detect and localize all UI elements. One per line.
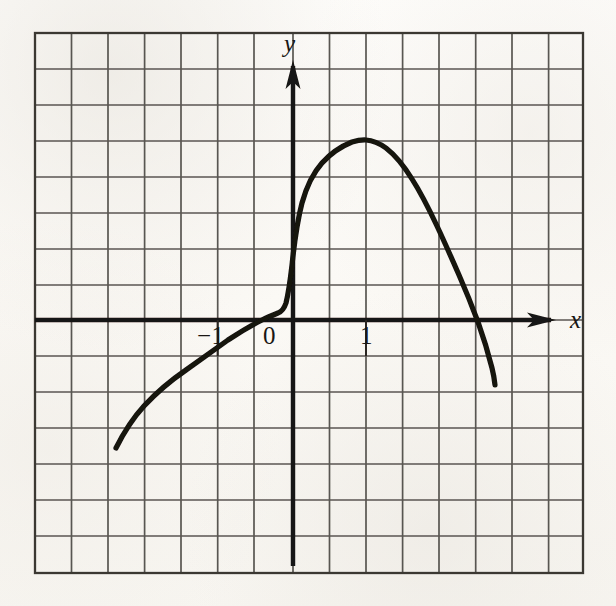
x-tick-label-one: 1 [360, 323, 373, 348]
grid-border [35, 33, 583, 573]
y-axis-label: y [284, 31, 295, 56]
x-axis-label: x [570, 307, 581, 332]
grid-lines [35, 33, 583, 573]
graph-figure: −1 0 1 y x [0, 0, 616, 606]
origin-label: 0 [263, 323, 276, 348]
x-tick-label-negative-one: −1 [197, 323, 225, 348]
plot-canvas [0, 0, 616, 606]
